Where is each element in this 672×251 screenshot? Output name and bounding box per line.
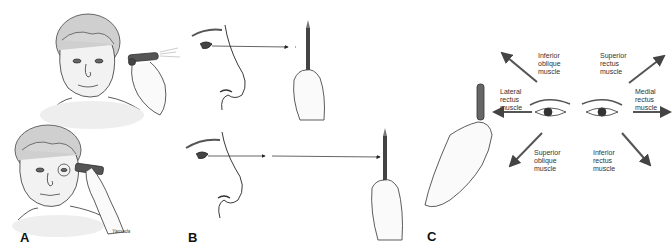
- panel-a: Yamada A: [0, 0, 190, 251]
- artist-signature: Yamada: [112, 228, 130, 234]
- arrow-superior-rectus: [629, 56, 664, 83]
- sight-line-far-2: [272, 156, 380, 157]
- panel-b: B: [180, 0, 425, 251]
- label-superior-oblique: Superior oblique muscle: [534, 149, 560, 173]
- label-inferior-rectus: Inferior rectus muscle: [593, 149, 615, 173]
- pencil-near: [294, 20, 325, 120]
- label-lateral-rectus: Lateral rectus muscle: [500, 88, 522, 112]
- label-medial-rectus: Medial rectus muscle: [635, 88, 657, 112]
- pencil-far: [372, 128, 403, 240]
- sight-line-near-1: [212, 46, 288, 47]
- eyes: [530, 100, 622, 116]
- hand-penlight-top: [128, 48, 180, 115]
- panel-letter-a: A: [20, 230, 29, 245]
- panel-letter-c: C: [427, 229, 436, 244]
- label-inferior-oblique: Inferior oblique muscle: [538, 52, 561, 76]
- panel-c: Inferior oblique muscle Superior rectus …: [420, 0, 672, 251]
- convergence-illustration: [180, 0, 425, 251]
- cardinal-gaze-illustration: [420, 0, 672, 251]
- face-profile-bottom: [186, 132, 242, 218]
- label-superior-rectus: Superior rectus muscle: [600, 52, 626, 76]
- woman-top: [40, 14, 144, 129]
- patient-penlight-illustration: Yamada: [0, 0, 190, 251]
- hand-penlight: [425, 84, 492, 207]
- arrow-inferior-oblique: [502, 53, 537, 82]
- face-profile-top: [192, 25, 245, 110]
- panel-letter-b: B: [188, 230, 197, 245]
- arrow-inferior-rectus: [622, 133, 650, 165]
